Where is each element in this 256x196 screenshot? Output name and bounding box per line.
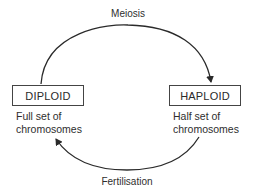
diploid-description-line-1: Full set of <box>16 110 82 123</box>
diploid-description: Full set of chromosomes <box>16 110 82 136</box>
diploid-box: DIPLOID <box>12 85 84 106</box>
haploid-description-line-2: chromosomes <box>173 123 239 136</box>
life-cycle-diagram: Meiosis DIPLOID HAPLOID Full set of chro… <box>0 0 256 196</box>
meiosis-label: Meiosis <box>111 8 145 20</box>
meiosis-arrow <box>41 25 211 84</box>
haploid-description-line-1: Half set of <box>173 110 239 123</box>
fertilisation-arrow <box>56 137 199 170</box>
haploid-label: HAPLOID <box>180 90 230 102</box>
diploid-description-line-2: chromosomes <box>16 123 82 136</box>
fertilisation-label: Fertilisation <box>101 176 152 188</box>
haploid-description: Half set of chromosomes <box>173 110 239 136</box>
diploid-label: DIPLOID <box>25 90 70 102</box>
haploid-box: HAPLOID <box>169 85 241 106</box>
